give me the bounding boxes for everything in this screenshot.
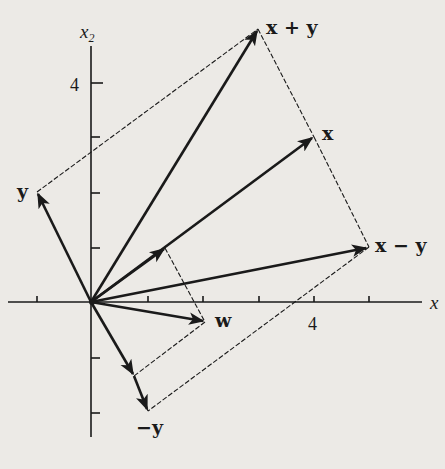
y-tick-label: 4 [70, 75, 79, 95]
vector-x-minus-y [91, 248, 366, 302]
vectors [38, 31, 366, 409]
vector-neg-y-part2 [134, 376, 147, 409]
label-neg-y: −y [136, 416, 164, 438]
label-x-minus-y: x − y [375, 234, 427, 256]
label-y: y [16, 180, 29, 202]
x-axis-label: x [429, 292, 439, 313]
x-axis [8, 296, 422, 302]
vector-x-plus-y [91, 31, 257, 302]
diagram-canvas: x2 x 4 4 x + y x y x − y w −y [0, 0, 445, 469]
vector-y [38, 194, 91, 302]
label-x: x [322, 122, 334, 144]
vector-diagram: x2 x 4 4 x + y x y x − y w −y [0, 0, 445, 469]
vector-w [91, 302, 203, 321]
y-axis-label: x2 [79, 21, 94, 45]
label-w: w [214, 309, 232, 331]
vector-neg-y-part1 [91, 302, 133, 374]
x-tick-label: 4 [308, 314, 317, 334]
label-x-plus-y: x + y [266, 16, 318, 38]
y-axis [91, 46, 103, 437]
